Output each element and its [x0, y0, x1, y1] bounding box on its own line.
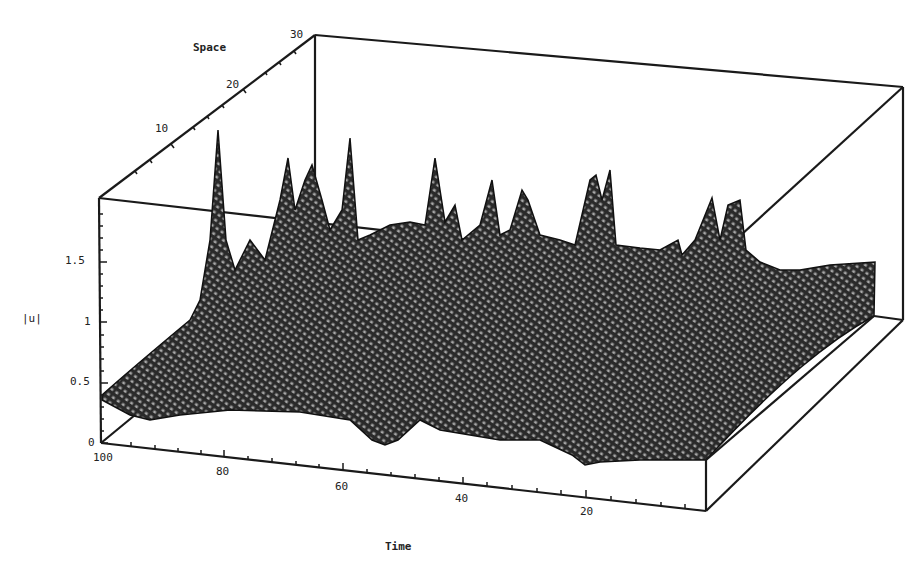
- y-tick-20: 20: [226, 78, 239, 91]
- x-tick-20: 20: [580, 505, 593, 518]
- y-axis-label: Space: [193, 41, 226, 54]
- y-tick-10: 10: [155, 122, 168, 135]
- z-axis-label: |u|: [22, 312, 42, 325]
- z-tick-0-5: 0.5: [70, 375, 90, 388]
- x-tick-80: 80: [216, 465, 229, 478]
- z-tick-0: 0: [88, 436, 95, 449]
- x-tick-60: 60: [335, 480, 348, 493]
- x-axis-label: Time: [385, 540, 412, 553]
- x-tick-100: 100: [93, 451, 113, 464]
- y-tick-30: 30: [290, 28, 303, 41]
- z-tick-1: 1: [84, 315, 91, 328]
- surface-plot: [0, 0, 905, 579]
- z-tick-1-5: 1.5: [65, 254, 85, 267]
- x-tick-40: 40: [455, 492, 468, 505]
